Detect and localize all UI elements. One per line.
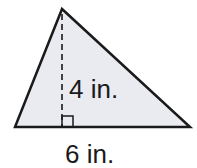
- triangle-diagram: 4 in. 6 in.: [0, 0, 197, 168]
- height-label: 4 in.: [69, 74, 118, 104]
- base-label: 6 in.: [65, 139, 114, 168]
- triangle: [15, 9, 190, 127]
